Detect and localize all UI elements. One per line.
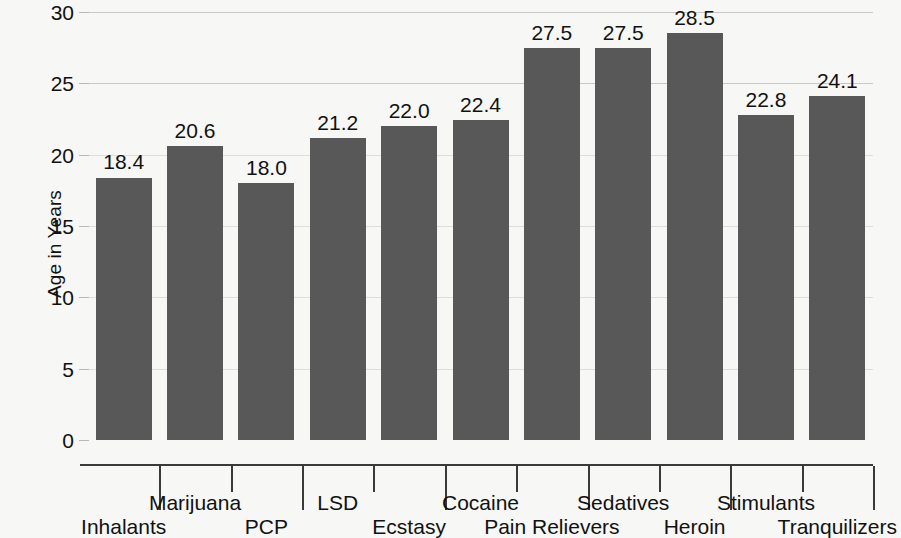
x-axis-category-label: Stimulants <box>666 492 866 513</box>
bars: 18.420.618.021.222.022.427.527.528.522.8… <box>88 12 873 440</box>
x-axis-line <box>80 464 873 466</box>
x-axis-tick-mark <box>373 466 375 492</box>
bar-value-label: 21.2 <box>298 112 378 133</box>
bar-value-label: 18.4 <box>84 151 164 172</box>
bar <box>524 48 580 440</box>
bar-value-label: 28.5 <box>655 7 735 28</box>
bar-value-label: 24.1 <box>797 70 877 91</box>
bar <box>96 178 152 441</box>
bar <box>453 120 509 440</box>
y-axis-title: Age in Years <box>44 144 66 344</box>
y-axis-tick-mark <box>79 440 89 441</box>
bar-value-label: 20.6 <box>155 120 235 141</box>
bar <box>667 33 723 440</box>
bar <box>167 146 223 440</box>
bar <box>595 48 651 440</box>
x-axis-tick-mark <box>516 466 518 492</box>
bar-value-label: 27.5 <box>512 22 592 43</box>
bar <box>238 183 294 440</box>
bar <box>809 96 865 440</box>
bar-value-label: 22.8 <box>726 89 806 110</box>
x-axis-tick-mark <box>873 466 875 510</box>
x-axis-category-label: Tranquilizers <box>737 516 901 537</box>
y-axis-tick-label: 15 <box>51 216 74 237</box>
x-axis-tick-mark <box>802 466 804 492</box>
bar-value-label: 18.0 <box>226 157 306 178</box>
y-axis-tick-label: 5 <box>62 358 74 379</box>
bar-value-label: 22.0 <box>369 100 449 121</box>
x-axis-tick-mark <box>231 466 233 492</box>
plot-area: Age in Years 051015202530 18.420.618.021… <box>88 12 873 440</box>
bar-value-label: 27.5 <box>583 22 663 43</box>
bar-value-label: 22.4 <box>441 94 521 115</box>
bar <box>738 115 794 440</box>
y-axis-tick-label: 30 <box>51 2 74 23</box>
y-axis-tick-label: 0 <box>62 430 74 451</box>
x-axis-tick-mark <box>659 466 661 492</box>
y-axis-tick-label: 25 <box>51 73 74 94</box>
y-axis-tick-label: 10 <box>51 287 74 308</box>
bar <box>381 126 437 440</box>
y-axis-tick-label: 20 <box>51 144 74 165</box>
bar <box>310 138 366 440</box>
